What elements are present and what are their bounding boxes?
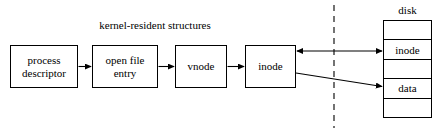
node-vnode: vnode [175,45,227,88]
diagram-canvas: kernel-resident structures process descr… [0,0,443,131]
disk-table: inode data [383,20,432,118]
diagram-title: kernel-resident structures [60,19,250,31]
disk-label: disk [383,4,432,16]
node-vnode-label: vnode [176,60,226,73]
node-process-descriptor: process descriptor [10,45,78,88]
node-open-file-entry-label: open file entry [93,54,157,80]
disk-row-label: inode [395,44,419,56]
disk-row-label: data [398,82,416,94]
disk-row-inode: inode [384,40,431,59]
disk-row [384,21,431,40]
node-process-descriptor-label: process descriptor [11,54,77,80]
node-open-file-entry: open file entry [92,45,158,88]
disk-row-data: data [384,79,431,98]
connector-inode-to-disk-data [296,73,382,87]
disk-row [384,60,431,79]
node-inode: inode [245,45,296,88]
node-inode-label: inode [246,60,295,73]
disk-row [384,99,431,117]
